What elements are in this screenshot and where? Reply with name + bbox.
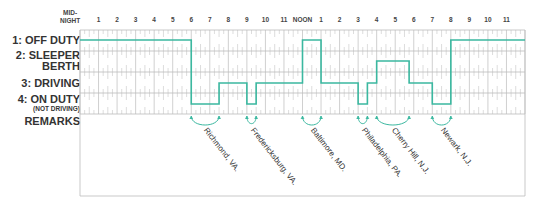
remark-bracket xyxy=(432,116,451,125)
remark-arrow-icon xyxy=(375,116,378,119)
remark-bracket xyxy=(377,116,409,125)
remark-bracket xyxy=(247,116,256,124)
remark-arrow-icon xyxy=(245,116,248,119)
remark-arrow-icon xyxy=(408,116,411,119)
remark-arrow-icon xyxy=(449,116,452,119)
remark-arrow-icon xyxy=(357,116,360,119)
remark-arrow-icon xyxy=(255,116,258,119)
remark-bracket xyxy=(191,116,219,125)
remark-arrow-icon xyxy=(320,116,323,119)
driver-log-grid: MID- NIGHT 1: OFF DUTY 2: SLEEPER BERTH … xyxy=(0,0,542,208)
remark-arrow-icon xyxy=(301,116,304,119)
remark-arrow-icon xyxy=(366,116,369,119)
remark-bracket xyxy=(358,116,367,124)
remark-arrow-icon xyxy=(218,116,221,119)
remark-arrow-icon xyxy=(431,116,434,119)
log-grid-svg xyxy=(0,0,542,208)
remark-arrow-icon xyxy=(190,116,193,119)
remark-bracket xyxy=(303,116,322,125)
